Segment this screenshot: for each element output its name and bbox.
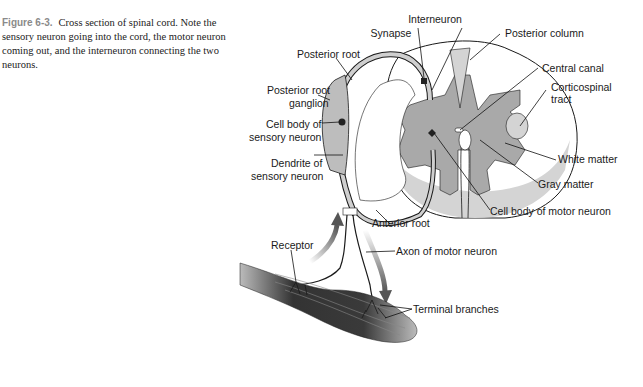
label-interneuron: Interneuron (408, 13, 462, 25)
label-corticospinal-2: tract (551, 93, 572, 105)
spinal-cord-diagram: Interneuron Synapse Posterior column Pos… (0, 0, 643, 387)
label-anterior-root: Anterior root (372, 217, 430, 229)
label-corticospinal-1: Corticospinal (551, 81, 612, 93)
label-dendrite-1: Dendrite of (271, 157, 322, 169)
label-dendrite-2: sensory neuron (251, 170, 324, 182)
label-cell-body-sensory-2: sensory neuron (249, 131, 322, 143)
muscle (240, 263, 417, 342)
label-cell-body-motor: Cell body of motor neuron (490, 205, 611, 217)
label-synapse: Synapse (371, 27, 412, 39)
label-white-matter: White matter (558, 153, 618, 165)
synapse-marker (421, 78, 427, 84)
label-receptor: Receptor (271, 239, 314, 251)
label-terminal-branches: Terminal branches (413, 303, 499, 315)
label-posterior-root-ganglion-1: Posterior root (267, 84, 330, 96)
label-cell-body-sensory-1: Cell body of (266, 118, 322, 130)
label-posterior-root: Posterior root (297, 48, 360, 60)
label-axon-motor: Axon of motor neuron (396, 245, 497, 257)
label-gray-matter: Gray matter (538, 178, 594, 190)
label-central-canal: Central canal (542, 62, 604, 74)
label-posterior-root-ganglion-2: ganglion (289, 97, 329, 109)
label-posterior-column: Posterior column (505, 27, 584, 39)
